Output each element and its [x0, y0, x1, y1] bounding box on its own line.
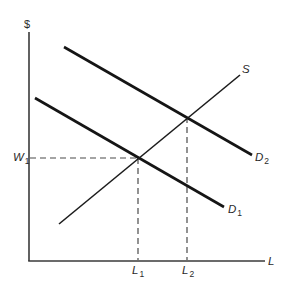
quantity-l1-label: L1 [132, 264, 144, 279]
quantity-l2-letter: L [182, 264, 188, 276]
labor-market-diagram: $ L S D1 D2 W1 L1 L2 [0, 0, 288, 290]
quantity-l2-label: L2 [182, 264, 194, 279]
supply-curve-label: S [242, 63, 250, 75]
demand-d1-label: D1 [228, 203, 242, 218]
x-axis-label: L [268, 255, 274, 267]
diagram-svg: $ L S D1 D2 W1 L1 L2 [0, 0, 288, 290]
quantity-l2-subscript: 2 [189, 269, 194, 279]
quantity-l1-letter: L [132, 264, 138, 276]
demand-curve-d2 [64, 47, 252, 155]
demand-d2-subscript: 2 [264, 156, 269, 166]
demand-curve-d1 [35, 98, 224, 207]
wage-w1-letter: W [13, 151, 25, 163]
y-axis-label: $ [24, 18, 30, 30]
demand-d2-letter: D [255, 151, 263, 163]
quantity-l1-subscript: 1 [139, 269, 144, 279]
demand-d2-label: D2 [255, 151, 269, 166]
wage-w1-subscript: 1 [25, 156, 30, 166]
demand-d1-subscript: 1 [237, 208, 242, 218]
demand-d1-letter: D [228, 203, 236, 215]
wage-w1-label: W1 [13, 151, 30, 166]
